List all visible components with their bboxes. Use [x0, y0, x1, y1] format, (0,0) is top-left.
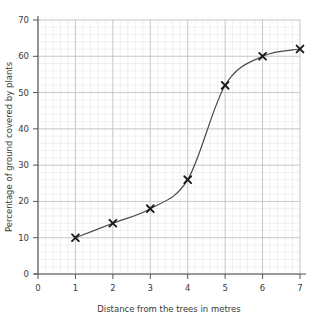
- x-tick-label: 4: [185, 283, 190, 293]
- x-tick-label: 0: [35, 283, 40, 293]
- y-tick-label: 60: [18, 51, 29, 61]
- x-axis-title: Distance from the trees in metres: [97, 304, 241, 314]
- x-axis-ticks: [38, 274, 300, 279]
- y-axis-ticks: [33, 20, 38, 274]
- x-tick-label: 6: [260, 283, 265, 293]
- y-tick-label: 70: [18, 15, 29, 25]
- y-tick-label: 50: [18, 88, 29, 98]
- y-tick-label: 10: [18, 233, 29, 243]
- y-tick-label: 30: [18, 160, 29, 170]
- line-chart: 010203040506070 01234567 Distance from t…: [0, 0, 312, 320]
- x-tick-label: 3: [148, 283, 153, 293]
- x-tick-label: 7: [297, 283, 302, 293]
- y-tick-label: 20: [18, 196, 29, 206]
- x-tick-label: 1: [73, 283, 78, 293]
- y-axis-tick-labels: 010203040506070: [18, 15, 29, 279]
- y-axis-title: Percentage of ground covered by plants: [4, 61, 14, 232]
- x-tick-label: 2: [110, 283, 115, 293]
- y-tick-label: 40: [18, 124, 29, 134]
- chart-canvas: 010203040506070 01234567 Distance from t…: [0, 0, 312, 320]
- y-tick-label: 0: [24, 269, 29, 279]
- x-tick-label: 5: [222, 283, 227, 293]
- x-axis-tick-labels: 01234567: [35, 283, 302, 293]
